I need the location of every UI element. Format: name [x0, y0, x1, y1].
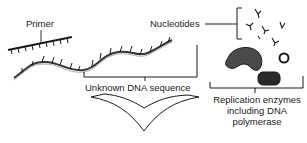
enzymes-bracket [210, 76, 303, 93]
enzyme-blobs [226, 47, 289, 85]
enzymes-label-line2: including DNA [207, 105, 307, 116]
nucleotides-label: Nucleotides [150, 18, 200, 29]
enzymes-label-line3: polymerase [207, 116, 307, 127]
nucleotide-glyphs [246, 9, 285, 46]
primer-strand [8, 30, 72, 54]
primer-label: Primer [26, 18, 54, 29]
unknown-dna-bracket [84, 45, 197, 81]
enzymes-label-line1: Replication enzymes [207, 94, 307, 105]
unknown-dna-label: Unknown DNA sequence [85, 82, 191, 93]
nucleotides-bracket [205, 8, 242, 39]
enzymes-label: Replication enzymes including DNA polyme… [207, 94, 307, 127]
down-arrow-icon [91, 94, 199, 131]
